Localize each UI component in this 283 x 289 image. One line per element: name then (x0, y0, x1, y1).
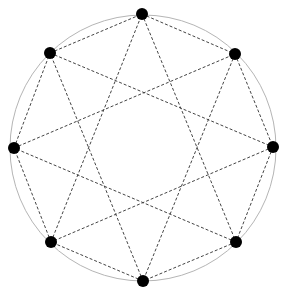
vertex-V5 (45, 236, 57, 248)
vertex-V0 (136, 8, 148, 20)
edge-V7-V2 (50, 53, 273, 147)
edge-V5-V6 (14, 148, 51, 242)
edge-V2-V5 (51, 147, 273, 242)
vertex-group (8, 8, 279, 287)
vertex-V1 (229, 48, 241, 60)
vertex-V6 (8, 142, 20, 154)
diagram-canvas (0, 0, 283, 289)
edge-V6-V7 (14, 53, 50, 148)
edge-V3-V4 (143, 242, 236, 281)
vertex-V3 (230, 236, 242, 248)
vertex-V7 (44, 47, 56, 59)
edge-V7-V0 (50, 14, 142, 53)
vertex-V4 (137, 275, 149, 287)
star-polygon-diagram (0, 0, 283, 289)
vertex-V2 (267, 141, 279, 153)
edge-V4-V7 (50, 53, 143, 281)
edge-V1-V4 (143, 54, 235, 281)
edge-V6-V1 (14, 54, 235, 148)
edge-V5-V0 (51, 14, 142, 242)
